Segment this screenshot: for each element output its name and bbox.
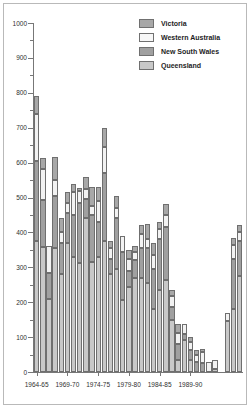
bar-segment (188, 342, 193, 350)
bar-segment (52, 248, 57, 372)
bar-segment (102, 241, 107, 372)
x-axis-tick (160, 372, 161, 376)
bar-segment (132, 252, 137, 261)
bar-segment (71, 192, 76, 215)
bar-segment (96, 222, 101, 257)
bar-segment (89, 187, 94, 206)
legend-label: Western Australia (161, 32, 220, 43)
bar-segment (34, 161, 39, 241)
bar-segment (151, 309, 156, 372)
bar-segment (237, 232, 242, 241)
bar-stack (108, 0, 113, 372)
legend-label: Victoria (161, 18, 187, 29)
bar-segment (157, 239, 162, 290)
bar-segment (169, 290, 174, 296)
bar-segment (237, 276, 242, 372)
bar-segment (132, 246, 137, 251)
bar-segment (96, 257, 101, 372)
bar-segment (108, 274, 113, 372)
bar-segment (52, 180, 57, 196)
legend-label: New South Wales (161, 46, 219, 57)
bar-segment (102, 147, 107, 173)
bar-segment (139, 278, 144, 372)
bar-segment (231, 309, 236, 372)
bar-segment (169, 320, 174, 372)
bar-segment (169, 307, 174, 319)
bar-segment (40, 247, 45, 372)
bar-segment (46, 299, 51, 372)
bar-stack (59, 0, 64, 372)
y-axis-major-tick (28, 372, 33, 373)
bar-segment (59, 274, 64, 372)
bar-segment (163, 215, 168, 227)
x-axis-tick (98, 372, 99, 376)
chart-figure: 01002003004005006007008009001000 1964-65… (0, 0, 250, 408)
bar-segment (139, 225, 144, 234)
bar-segment (151, 243, 156, 255)
bar-segment (126, 250, 131, 259)
bar-segment (145, 239, 150, 248)
x-axis-tick (129, 372, 130, 376)
bar-stack (34, 0, 39, 372)
legend-label: Queensland (161, 60, 201, 71)
legend-item: New South Wales (133, 45, 241, 59)
bar-segment (157, 229, 162, 239)
bar-segment (188, 350, 193, 360)
bar-segment (96, 201, 101, 222)
bar-segment (151, 269, 156, 309)
bar-segment (157, 290, 162, 372)
bar-segment (200, 363, 205, 372)
bar-segment (52, 196, 57, 248)
x-axis-tick (37, 372, 38, 376)
bar-stack (96, 0, 101, 372)
bar-segment (175, 344, 180, 360)
chart-legend: VictoriaWestern AustraliaNew South Wales… (133, 17, 241, 77)
bar-segment (34, 114, 39, 161)
bar-segment (188, 337, 193, 342)
bar-stack (71, 0, 76, 372)
bar-segment (65, 203, 70, 213)
bar-segment (65, 192, 70, 202)
x-axis-line (33, 372, 243, 373)
bar-segment (182, 334, 187, 340)
bar-segment (71, 215, 76, 257)
bar-segment (139, 248, 144, 278)
bar-segment (108, 248, 113, 258)
bar-stack (102, 0, 107, 372)
x-axis-tick-label: 1989-90 (170, 381, 210, 389)
bar-segment (120, 300, 125, 372)
bar-segment (145, 248, 150, 283)
bar-stack (114, 0, 119, 372)
bar-stack (52, 0, 57, 372)
bar-segment (114, 196, 119, 208)
bar-segment (114, 208, 119, 218)
bar-segment (34, 96, 39, 113)
bar-stack (65, 0, 70, 372)
bar-segment (169, 296, 174, 307)
bar-segment (139, 234, 144, 248)
legend-swatch (139, 61, 154, 70)
bar-stack (77, 0, 82, 372)
bar-segment (231, 238, 236, 245)
bar-segment (40, 158, 45, 168)
legend-swatch (139, 47, 154, 56)
bar-segment (132, 260, 137, 277)
bar-segment (145, 224, 150, 240)
bar-segment (59, 243, 64, 274)
bar-segment (194, 350, 199, 354)
bar-segment (231, 259, 236, 310)
bar-segment (145, 283, 150, 372)
bar-segment (89, 262, 94, 372)
legend-item: Queensland (133, 59, 241, 73)
bar-segment (151, 255, 156, 269)
bar-segment (83, 199, 88, 218)
bar-segment (71, 257, 76, 372)
bar-stack (40, 0, 45, 372)
bar-segment (102, 173, 107, 241)
bar-segment (212, 360, 217, 369)
bar-segment (59, 218, 64, 232)
bar-segment (175, 324, 180, 333)
legend-item: Victoria (133, 17, 241, 31)
bar-segment (65, 243, 70, 372)
bar-segment (200, 349, 205, 352)
